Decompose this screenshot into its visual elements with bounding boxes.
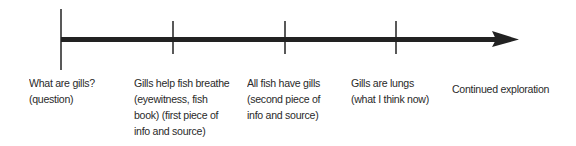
event-label-second-info: All fish have gills (second piece of inf… (247, 75, 320, 123)
event-label-continued-exploration: Continued exploration (452, 81, 549, 97)
event-title: What are gills? (29, 75, 95, 91)
event-label-question: What are gills? (question) (29, 75, 95, 107)
event-detail: (question) (29, 91, 95, 107)
event-title: All fish have gills (247, 75, 320, 91)
event-title: Gills are lungs (351, 75, 429, 91)
event-detail: (what I think now) (351, 91, 429, 107)
timeline-diagram: What are gills? (question) Gills help fi… (0, 0, 576, 146)
timeline-graphic (0, 0, 576, 146)
event-detail: info and source) (134, 123, 229, 139)
event-detail: info and source) (247, 107, 320, 123)
event-label-current-thinking: Gills are lungs (what I think now) (351, 75, 429, 107)
event-title: Gills help fish breathe (134, 75, 229, 91)
event-detail: book) (first piece of (134, 107, 229, 123)
event-detail: (second piece of (247, 91, 320, 107)
event-detail: (eyewitness, fish (134, 91, 229, 107)
event-title: Continued exploration (452, 81, 549, 97)
arrow-head-icon (492, 31, 519, 47)
event-label-first-info: Gills help fish breathe (eyewitness, fis… (134, 75, 229, 139)
